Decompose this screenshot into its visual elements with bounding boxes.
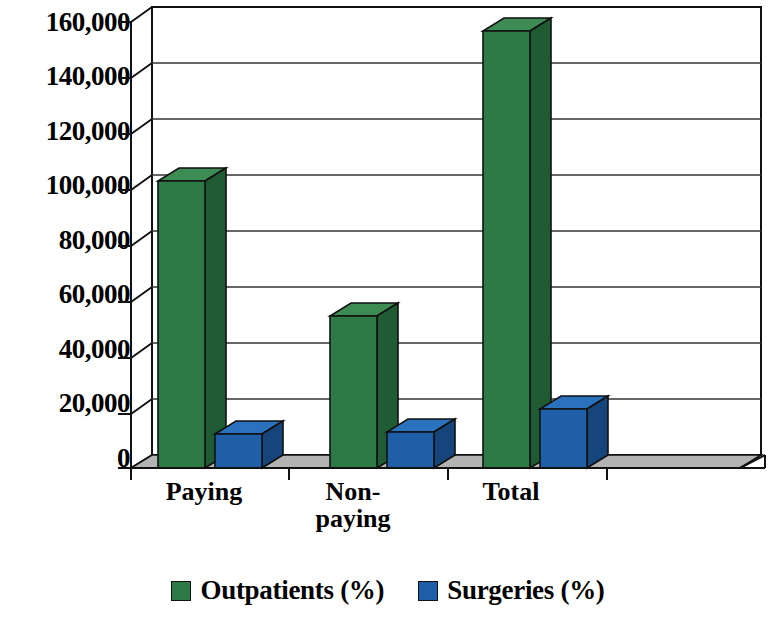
x-axis-labels: Paying Non- paying Total (131, 478, 765, 548)
legend-label-outpatients: Outpatients (%) (200, 575, 384, 606)
legend-item-surgeries: Surgeries (%) (418, 575, 604, 606)
bar-outpatients-paying (158, 168, 226, 468)
chart-legend: Outpatients (%) Surgeries (%) (0, 575, 776, 606)
bar-outpatients-total (483, 18, 551, 468)
bar-chart: 160,000 140,000 120,000 100,000 80,000 6… (0, 0, 776, 640)
x-axis-label-total: Total (416, 478, 606, 505)
legend-label-surgeries: Surgeries (%) (447, 575, 604, 606)
plot-area (0, 0, 776, 520)
x-axis-label-nonpaying-line1: Non- (326, 477, 381, 506)
y-axis-ticks (118, 22, 152, 468)
legend-item-outpatients: Outpatients (%) (171, 575, 384, 606)
x-axis-label-paying-line1: Paying (166, 477, 243, 506)
legend-swatch-green-icon (171, 581, 191, 601)
bar-surgeries-paying (215, 421, 283, 468)
bar-surgeries-nonpaying (387, 419, 455, 468)
bar-surgeries-total (540, 396, 608, 468)
x-axis-label-total-line1: Total (483, 477, 540, 506)
x-axis-label-nonpaying-line2: paying (315, 504, 390, 533)
legend-swatch-blue-icon (418, 581, 438, 601)
